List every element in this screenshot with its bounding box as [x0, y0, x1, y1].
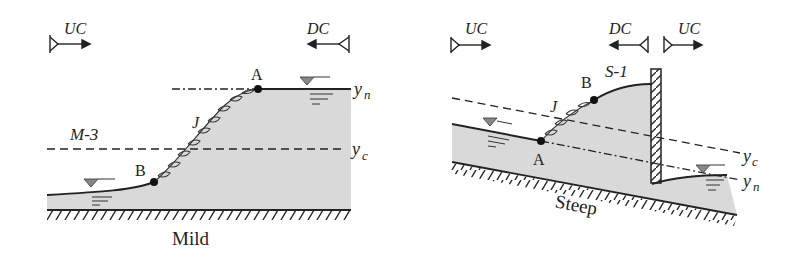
- downstream-control-symbol: [610, 36, 648, 53]
- normal-depth-label: y n: [352, 79, 371, 102]
- critical-depth-label: y c: [741, 146, 758, 169]
- profile-label: S-1: [605, 62, 628, 81]
- downstream-control-label: DC: [608, 20, 632, 37]
- critical-depth-symbol: y: [741, 146, 751, 166]
- bed-slope-label: Mild: [172, 228, 209, 249]
- upstream-control-symbol-1: [451, 37, 490, 53]
- point-a-label: A: [251, 66, 263, 83]
- critical-depth-label: y c: [350, 139, 368, 163]
- upstream-control-symbol: [50, 35, 90, 53]
- normal-depth-symbol: y: [741, 171, 751, 191]
- bed-hatching: [47, 211, 351, 220]
- point-a-marker: [254, 85, 262, 93]
- jump-label: J: [550, 98, 558, 115]
- jump-label: J: [192, 114, 200, 131]
- downstream-control-label: DC: [306, 20, 330, 37]
- normal-depth-label: y n: [741, 171, 760, 194]
- point-a-marker: [537, 137, 545, 145]
- upstream-control-symbol-2: [664, 36, 702, 53]
- point-b-label: B: [135, 162, 146, 179]
- point-b-marker: [150, 178, 158, 186]
- upstream-control-label: UC: [64, 20, 87, 37]
- upstream-control-label-2: UC: [678, 20, 701, 37]
- downstream-control-symbol: [308, 35, 349, 53]
- hydraulic-jump-diagram: UC DC A B J M-3 Mild y n y c: [0, 0, 807, 257]
- sluice-gate: [651, 69, 661, 183]
- point-a-label: A: [533, 151, 545, 168]
- right-panel-steep: UC DC UC A B J S-1 Steep y c y n: [449, 20, 760, 226]
- point-b-marker: [590, 96, 598, 104]
- point-b-label: B: [581, 74, 592, 91]
- profile-label: M-3: [69, 125, 98, 144]
- normal-depth-symbol: y: [352, 79, 362, 99]
- critical-depth-subscript: c: [752, 154, 758, 169]
- upstream-control-label-1: UC: [465, 20, 488, 37]
- normal-depth-subscript: n: [364, 87, 371, 102]
- critical-depth-subscript: c: [362, 148, 368, 163]
- normal-depth-subscript: n: [753, 179, 760, 194]
- left-panel-mild: UC DC A B J M-3 Mild y n y c: [47, 20, 371, 249]
- critical-depth-symbol: y: [350, 139, 360, 159]
